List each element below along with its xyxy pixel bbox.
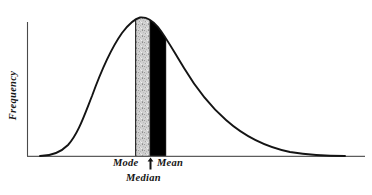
- y-axis-title: Frequency: [2, 52, 24, 138]
- mode-to-median-band: [135, 10, 150, 157]
- distribution-curve-figure: [0, 0, 372, 195]
- figure-canvas: Frequency Mode Mean Median: [0, 0, 372, 195]
- mode-label: Mode: [113, 157, 139, 168]
- mean-label: Mean: [157, 157, 183, 168]
- median-label: Median: [126, 172, 161, 183]
- median-to-mean-band: [150, 10, 166, 157]
- frequency-distribution-curve: [40, 17, 345, 156]
- arrow-up-icon: [145, 157, 156, 170]
- y-axis-title-text: Frequency: [8, 70, 19, 119]
